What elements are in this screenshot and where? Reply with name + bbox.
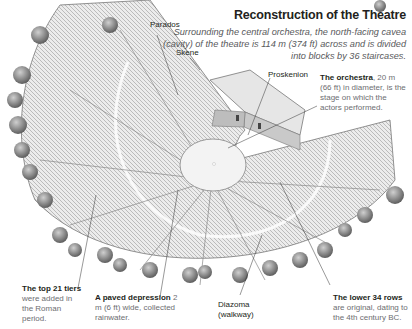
annotation-lower-rows: The lower 34 rows are original, dating t…	[333, 293, 411, 323]
label-diazoma: Diazoma(walkway)	[218, 300, 254, 320]
annotation-paved-depression: A paved depression 2 m (6 ft) wide, coll…	[95, 293, 183, 323]
label-skene: Skene	[176, 48, 199, 58]
annotation-top-tiers: The top 21 tiers were added in the Roman…	[22, 284, 82, 324]
page-title: Reconstruction of the Theatre	[234, 8, 406, 22]
label-parados: Parados	[150, 20, 180, 30]
label-proskenion: Proskenion	[268, 70, 308, 80]
annotation-orchestra: The orchestra, 20 m (66 ft) in diameter,…	[320, 73, 408, 113]
